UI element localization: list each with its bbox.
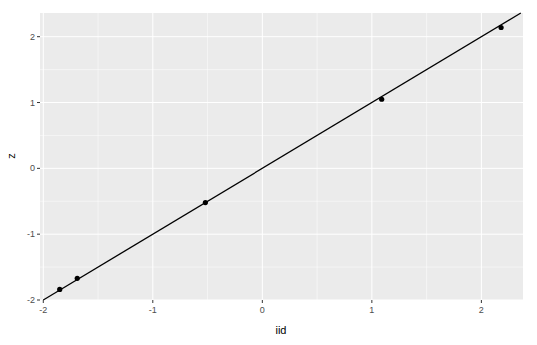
y-tick-label: 2 <box>30 32 35 42</box>
y-tick-label: -1 <box>27 229 35 239</box>
x-tick-label: 0 <box>260 305 265 315</box>
x-tick-label: -2 <box>39 305 47 315</box>
y-tick-label: 0 <box>30 163 35 173</box>
y-tick-label: -2 <box>27 295 35 305</box>
data-point <box>379 97 384 102</box>
x-axis-title: iid <box>275 324 286 336</box>
scatter-chart: -2-1012 -2-1012 iid z <box>0 0 537 345</box>
data-point <box>75 276 80 281</box>
data-point <box>203 200 208 205</box>
x-tick-label: -1 <box>149 305 157 315</box>
data-point <box>57 287 62 292</box>
x-tick-label: 2 <box>479 305 484 315</box>
x-tick-label: 1 <box>369 305 374 315</box>
y-axis: -2-1012 <box>27 32 40 305</box>
y-axis-title: z <box>5 153 17 159</box>
data-point <box>498 25 503 30</box>
y-tick-label: 1 <box>30 98 35 108</box>
x-axis: -2-1012 <box>39 300 484 315</box>
